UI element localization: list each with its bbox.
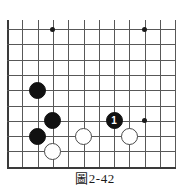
grid-line-vertical bbox=[114, 20, 115, 167]
grid-line-vertical bbox=[68, 20, 69, 167]
go-board: 1 bbox=[0, 0, 190, 170]
go-diagram-figure: 1 圖2-42 bbox=[0, 0, 190, 188]
grid-line-vertical bbox=[175, 20, 176, 167]
stone-move-number: 1 bbox=[111, 116, 117, 126]
grid-line-horizontal bbox=[7, 106, 176, 107]
grid-line-horizontal bbox=[7, 151, 176, 152]
grid-line-vertical bbox=[84, 20, 85, 167]
grid-line-horizontal bbox=[7, 29, 176, 30]
grid-line-horizontal bbox=[7, 75, 176, 76]
stone-black[interactable] bbox=[29, 82, 46, 99]
stone-white[interactable] bbox=[121, 128, 138, 145]
grid-line-horizontal bbox=[7, 121, 176, 122]
grid-line-vertical bbox=[22, 20, 23, 167]
star-point-icon bbox=[142, 27, 147, 32]
figure-caption: 圖2-42 bbox=[0, 168, 190, 187]
star-point-icon bbox=[50, 27, 55, 32]
grid-line-horizontal bbox=[7, 60, 176, 61]
stone-white[interactable] bbox=[75, 128, 92, 145]
grid-line-vertical bbox=[7, 20, 9, 167]
grid-line-horizontal bbox=[7, 44, 176, 45]
stone-white[interactable] bbox=[44, 143, 61, 160]
stone-black-numbered[interactable]: 1 bbox=[106, 112, 123, 129]
grid-line-vertical bbox=[160, 20, 161, 167]
star-point-icon bbox=[142, 118, 147, 123]
grid-line-vertical bbox=[99, 20, 100, 167]
grid-line-vertical bbox=[145, 20, 146, 167]
grid-line-vertical bbox=[129, 20, 130, 167]
stone-black[interactable] bbox=[29, 128, 46, 145]
stone-black[interactable] bbox=[44, 112, 61, 129]
